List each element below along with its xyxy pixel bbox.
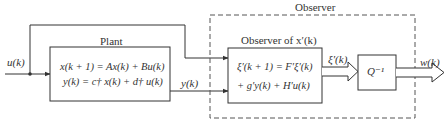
observer-group-title: Observer [295,2,335,13]
observer-block-title: Observer of x′(k) [241,35,317,46]
plant-equation-1: x(k + 1) = Ax(k) + Bu(k) [60,62,164,73]
q-inverse-label: Q⁻¹ [367,66,384,77]
input-wire [5,72,50,76]
xi-label: ξ′(k) [328,54,347,65]
observer-block-box [228,48,322,103]
plant-title: Plant [100,36,123,47]
output-label: y(k) [181,78,198,89]
block-diagram: u(k) Plant x(k + 1) = Ax(k) + Bu(k) y(k)… [0,0,448,127]
plant-equation-2: y(k) = c† x(k) + d† u(k) [63,77,163,88]
observer-equation-1: ξ′(k + 1) = F′ξ′(k) [237,62,313,73]
w-label: w(k) [420,57,440,68]
plant-box [50,47,170,101]
input-label: u(k) [7,57,25,68]
observer-equation-2: + g′y(k) + H′u(k) [237,81,310,92]
